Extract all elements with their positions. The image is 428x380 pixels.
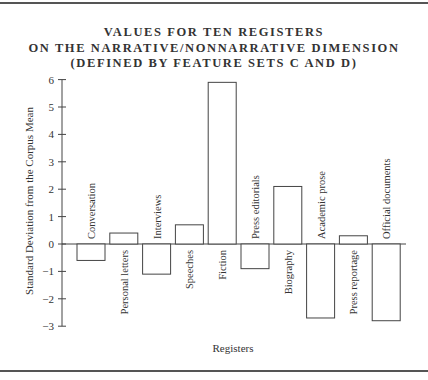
bar-chart: −3−2−10123456 ConversationPersonal lette… xyxy=(0,0,428,380)
category-label: Conversation xyxy=(86,182,97,239)
bar-group: Fiction xyxy=(208,82,236,279)
bar-group: Academic prose xyxy=(307,171,335,318)
y-tick-label: 1 xyxy=(49,211,55,223)
category-label: Speeches xyxy=(184,250,195,289)
bar xyxy=(372,244,400,321)
bar-group: Conversation xyxy=(77,182,105,260)
bar xyxy=(241,244,269,269)
y-tick-label: 3 xyxy=(49,156,55,168)
bar-group: Speeches xyxy=(175,225,203,289)
category-label: Press editorials xyxy=(250,175,261,239)
bar-group: Official documents xyxy=(372,158,400,320)
x-axis-label: Registers xyxy=(213,342,254,354)
y-tick-label: 4 xyxy=(49,128,55,140)
bottom-rule xyxy=(0,370,428,372)
category-label: Interviews xyxy=(152,195,163,239)
bar xyxy=(77,244,105,260)
bar-group: Interviews xyxy=(143,195,171,274)
category-label: Academic prose xyxy=(316,171,327,239)
bar xyxy=(175,225,203,244)
bar xyxy=(143,244,171,274)
category-label: Fiction xyxy=(217,249,228,280)
y-tick-label: 6 xyxy=(49,74,55,86)
bar xyxy=(339,236,367,244)
y-axis-label: Standard Deviation from the Corpus Mean xyxy=(23,107,35,295)
bar xyxy=(208,82,236,244)
bar-group: Personal letters xyxy=(110,233,138,314)
y-tick-label: −3 xyxy=(42,320,54,332)
bar-group: Press editorials xyxy=(241,175,269,269)
y-tick-label: 0 xyxy=(49,238,55,250)
y-tick-label: 2 xyxy=(49,183,55,195)
category-label: Biography xyxy=(283,249,294,294)
category-label: Official documents xyxy=(381,158,392,239)
y-tick-label: −1 xyxy=(42,265,54,277)
bar-group: Biography xyxy=(274,186,302,294)
y-tick-label: −2 xyxy=(42,293,54,305)
bars: ConversationPersonal lettersInterviewsSp… xyxy=(77,82,400,320)
category-label: Press reportage xyxy=(348,250,359,315)
bar xyxy=(307,244,335,318)
bar-group: Press reportage xyxy=(339,236,367,315)
bar xyxy=(110,233,138,244)
y-tick-label: 5 xyxy=(49,101,55,113)
category-label: Personal letters xyxy=(119,250,130,314)
bar xyxy=(274,186,302,244)
